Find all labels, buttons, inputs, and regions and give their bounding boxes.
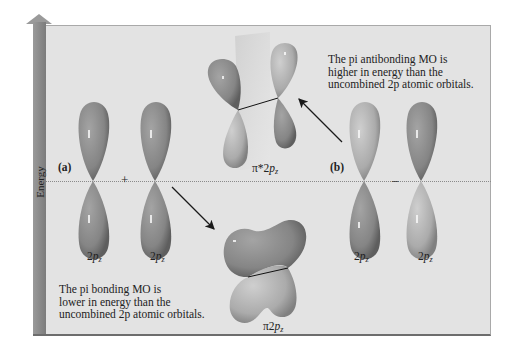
panel-a-tag: (a) [58, 161, 71, 173]
p-orbital-b-right [407, 102, 438, 259]
pi-bonding-orbital [224, 220, 307, 323]
pi-star-antibonding-orbital [208, 32, 298, 170]
panel-b-minus-sign: – [392, 172, 399, 188]
panel-a-plus-sign: + [121, 172, 128, 188]
bonding-caption: The pi bonding MO is lower in energy tha… [59, 283, 205, 321]
panel-b-tag: (b) [330, 161, 344, 173]
pi-bonding-label: π2pz [263, 320, 283, 334]
panel-a-right-orbital-label: 2pz [150, 250, 165, 264]
panel-a-left-orbital-label: 2pz [87, 250, 102, 264]
arrow-to-antibonding [299, 99, 342, 142]
p-orbital-a-left [79, 102, 110, 259]
panel-b-left-orbital-label: 2pz [354, 250, 369, 264]
p-orbital-a-right [141, 102, 172, 259]
antibonding-caption: The pi antibonding MO is higher in energ… [328, 53, 474, 91]
p-orbital-b-left [350, 102, 381, 259]
panel-b-right-orbital-label: 2pz [418, 250, 433, 264]
pi-star-antibonding-label: π*2pz [252, 162, 278, 176]
arrow-to-bonding [172, 187, 214, 229]
